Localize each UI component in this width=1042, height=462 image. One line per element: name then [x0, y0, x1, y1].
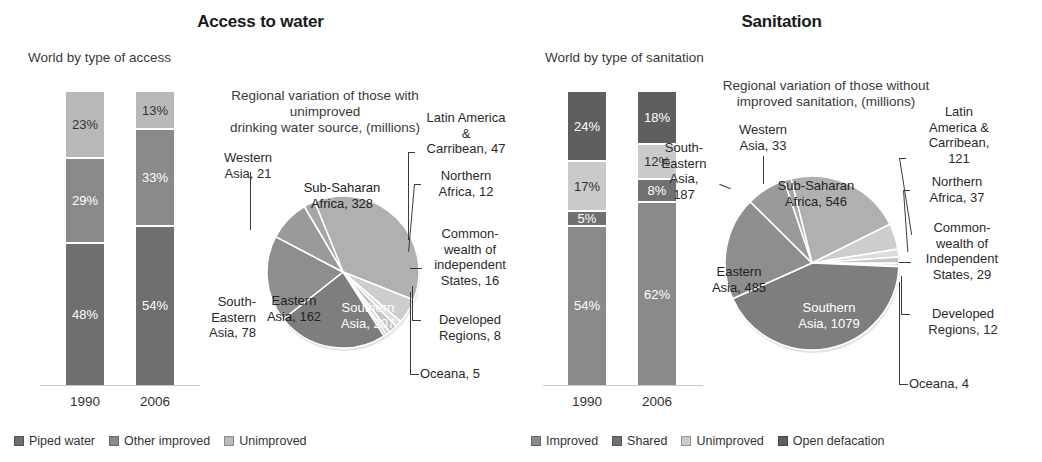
- pie-label-southern-asia-sanitation: Southern Asia, 1079: [779, 300, 879, 331]
- pie-label-latin-america-water: Latin America & Carribean, 47: [414, 110, 518, 157]
- legend-swatch-icon: [612, 436, 622, 446]
- legend-swatch-icon: [681, 436, 691, 446]
- bar-segment-value: 54%: [142, 299, 168, 312]
- leader-line-cis-sanitation: [899, 262, 911, 263]
- pie-label-developed-regions-water: Developed Regions, 8: [422, 312, 518, 343]
- bar-segment-value: 13%: [142, 104, 168, 117]
- pie-label-western-asia-sanitation: Western Asia, 33: [727, 122, 799, 153]
- bar-segment-other-improved: 33%: [136, 130, 174, 227]
- pie-label-developed-regions-sanitation: Developed Regions, 12: [911, 306, 1015, 337]
- bar-segment-value: 33%: [142, 171, 168, 184]
- leader-tick-developed-regions-sanitation: [901, 314, 910, 315]
- bar-segment-value: 17%: [574, 180, 600, 193]
- pie-label-eastern-asia-water: Eastern Asia, 162: [256, 293, 332, 324]
- pie-label-sub-saharan-africa-water: Sub-Saharan Africa, 328: [282, 180, 402, 211]
- bar-segment-open-defacation: 18%: [638, 92, 676, 145]
- bar-segment-value: 48%: [72, 308, 98, 321]
- pie-label-eastern-asia-sanitation: Eastern Asia, 485: [699, 264, 779, 295]
- legend-label: Other improved: [124, 434, 210, 448]
- pie-label-northern-africa-water: Northern Africa, 12: [418, 168, 514, 199]
- bar-segment-value: 24%: [574, 120, 600, 133]
- bar-segment-value: 23%: [72, 118, 98, 131]
- legend-item-unimproved[interactable]: Unimproved: [224, 434, 306, 448]
- bar-segment-improved: 62%: [638, 203, 676, 385]
- legend-swatch-icon: [14, 436, 24, 446]
- bar-segment-value: 29%: [72, 194, 98, 207]
- panel-sanitation: Sanitation World by type of sanitation 2…: [521, 0, 1042, 462]
- legend-item-unimproved[interactable]: Unimproved: [681, 434, 763, 448]
- stacked-bar-water-1990: 23%29%48%: [66, 92, 104, 385]
- legend-item-open-defacation[interactable]: Open defacation: [778, 434, 885, 448]
- bar-segment-open-defacation: 24%: [568, 92, 606, 162]
- bars-subtitle-sanitation: World by type of sanitation: [545, 50, 704, 65]
- year-label-water-1990: 1990: [55, 394, 115, 409]
- bar-segment-shared: 5%: [568, 212, 606, 227]
- bar-segment-piped-water: 54%: [136, 227, 174, 385]
- year-label-water-2006: 2006: [125, 394, 185, 409]
- pie-label-cis-water: Common- wealth of independent States, 16: [422, 226, 518, 288]
- leader-line-cis-water: [410, 268, 422, 269]
- bar-segment-value: 12%: [644, 155, 670, 168]
- legend-label: Shared: [627, 434, 667, 448]
- bar-segment-value: 54%: [574, 299, 600, 312]
- stacked-bar-sanitation-2006: 18%12%8%62%: [638, 92, 676, 385]
- panel-access-to-water: Access to water World by type of access …: [0, 0, 521, 462]
- pie-label-latin-america-sanitation: Latin America & Carribean, 121: [907, 104, 1011, 166]
- leader-tick-northern-africa-sanitation: [903, 190, 910, 191]
- leader-tick-latin-america-sanitation: [899, 158, 906, 159]
- legend-label: Improved: [546, 434, 598, 448]
- pie-label-sub-saharan-africa-sanitation: Sub-Saharan Africa, 546: [756, 178, 876, 209]
- bar-segment-value: 62%: [644, 288, 670, 301]
- leader-tick-northern-africa-water: [414, 184, 421, 185]
- pie-label-oceana-water: Oceana, 5: [420, 366, 512, 382]
- legend-label: Open defacation: [793, 434, 885, 448]
- bar-segment-piped-water: 48%: [66, 244, 104, 385]
- pie-label-southern-asia-water: Southern Asia, 207: [322, 300, 414, 331]
- pie-title-water: Regional variation of those with unimpro…: [200, 88, 450, 136]
- legend-item-other-improved[interactable]: Other improved: [109, 434, 210, 448]
- pie-label-western-asia-water: Western Asia, 21: [212, 150, 284, 181]
- bar-segment-improved: 54%: [568, 227, 606, 385]
- year-label-sanitation-2006: 2006: [627, 394, 687, 409]
- bar-segment-other-improved: 29%: [66, 159, 104, 244]
- legend-label: Unimproved: [696, 434, 763, 448]
- bar-segment-value: 18%: [644, 111, 670, 124]
- legend-swatch-icon: [531, 436, 541, 446]
- legend-item-improved[interactable]: Improved: [531, 434, 598, 448]
- leader-line-oceana-water: [410, 292, 411, 374]
- stacked-bar-sanitation-1990: 24%17%5%54%: [568, 92, 606, 385]
- leader-line-developed-regions-water: [412, 286, 413, 320]
- legend-swatch-icon: [778, 436, 788, 446]
- bars-subtitle-water: World by type of access: [28, 50, 171, 65]
- pie-label-oceana-sanitation: Oceana, 4: [909, 376, 1001, 392]
- legend-sanitation: ImprovedSharedUnimprovedOpen defacation: [531, 434, 899, 448]
- axis-line-sanitation: [543, 385, 703, 386]
- pie-label-south-eastern-asia-water: South- Eastern Asia, 78: [186, 294, 256, 341]
- leader-line-western-asia-sanitation: [763, 156, 764, 184]
- bar-segment-unimproved: 17%: [568, 162, 606, 212]
- legend-label: Unimproved: [239, 434, 306, 448]
- leader-tick-oceana-water: [410, 374, 419, 375]
- bar-segment-unimproved: 13%: [136, 92, 174, 130]
- stacked-bar-water-2006: 13%33%54%: [136, 92, 174, 385]
- leader-line-oceana-sanitation: [899, 282, 900, 384]
- page-title-sanitation: Sanitation: [521, 12, 1042, 32]
- leader-tick-developed-regions-water: [412, 320, 421, 321]
- axis-line-water: [40, 385, 200, 386]
- pie-label-cis-sanitation: Common- wealth of Independent States, 29: [911, 220, 1013, 282]
- legend-item-shared[interactable]: Shared: [612, 434, 667, 448]
- legend-swatch-icon: [224, 436, 234, 446]
- leader-line-western-asia-water: [250, 172, 251, 230]
- legend-label: Piped water: [29, 434, 95, 448]
- year-label-sanitation-1990: 1990: [557, 394, 617, 409]
- legend-item-piped-water[interactable]: Piped water: [14, 434, 95, 448]
- pie-label-northern-africa-sanitation: Northern Africa, 37: [909, 174, 1005, 205]
- legend-water: Piped waterOther improvedUnimproved: [14, 434, 321, 448]
- legend-swatch-icon: [109, 436, 119, 446]
- page-title-water: Access to water: [0, 12, 521, 32]
- leader-line-latin-america-water: [408, 152, 409, 240]
- bar-segment-value: 5%: [578, 212, 597, 225]
- leader-line-developed-regions-sanitation: [901, 276, 902, 314]
- bar-segment-value: 8%: [648, 184, 667, 197]
- leader-tick-latin-america-water: [408, 152, 415, 153]
